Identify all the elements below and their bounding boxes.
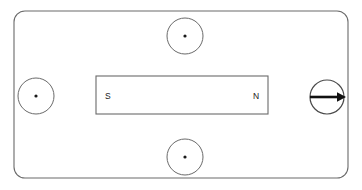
field-marker-left xyxy=(18,78,54,114)
bar-magnet-body xyxy=(96,76,268,114)
north-pole-label: N xyxy=(253,91,259,101)
diagram-canvas: S N xyxy=(0,0,362,190)
south-pole-label: S xyxy=(105,91,111,101)
out-of-page-dot-icon xyxy=(183,155,186,158)
out-of-page-dot-icon xyxy=(34,94,37,97)
outer-boundary-rectangle xyxy=(14,11,348,178)
field-marker-bottom xyxy=(167,139,203,175)
field-marker-right xyxy=(310,80,346,114)
out-of-page-dot-icon xyxy=(183,34,186,37)
arrow-right-icon-head xyxy=(337,92,346,102)
field-marker-top xyxy=(167,18,203,54)
bar-magnet-field-diagram: S N xyxy=(0,0,362,190)
